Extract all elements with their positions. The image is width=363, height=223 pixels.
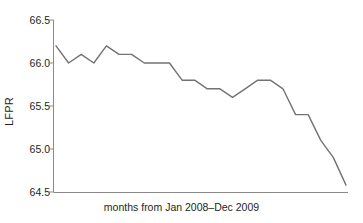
lfpr-line-chart: LFPR 66.5 66.0 65.5 65.0 64.5 months fro… xyxy=(0,0,363,223)
plot-area xyxy=(0,0,363,223)
x-axis-title: months from Jan 2008–Dec 2009 xyxy=(0,201,363,213)
lfpr-data-line xyxy=(56,46,346,185)
axis-lines xyxy=(54,20,349,193)
y-axis-tick-marks xyxy=(48,20,54,192)
